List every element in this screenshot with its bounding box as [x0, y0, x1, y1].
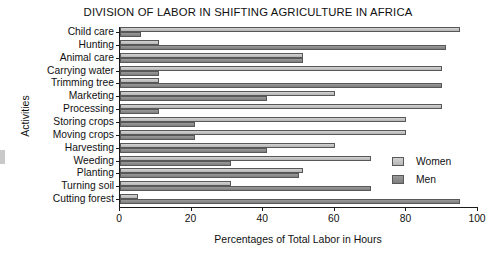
x-axis-tick	[262, 207, 263, 211]
bar-men	[120, 173, 299, 178]
legend-swatch-women	[392, 157, 404, 166]
y-axis-label: Activities	[19, 71, 31, 161]
x-axis-tick	[405, 207, 406, 211]
category-label: Turning soil	[61, 180, 114, 192]
bar-men	[120, 186, 371, 191]
x-axis-tick-label: 20	[185, 213, 196, 224]
x-axis-label: Percentages of Total Labor in Hours	[119, 233, 477, 245]
bar-men	[120, 109, 159, 114]
category-label: Marketing	[69, 90, 114, 102]
chart-row: Animal care	[119, 53, 477, 65]
chart-row: Moving crops	[119, 130, 477, 142]
x-axis-line	[119, 207, 478, 208]
scan-artifact	[0, 150, 5, 164]
chart-row: Hunting	[119, 40, 477, 52]
legend-label: Women	[416, 155, 451, 168]
category-label: Trimming tree	[51, 77, 114, 89]
category-label: Carrying water	[47, 65, 114, 77]
bar-men	[120, 96, 267, 101]
bar-men	[120, 71, 159, 76]
bar-women	[120, 104, 442, 109]
category-label: Child care	[68, 26, 114, 38]
chart-row: Carrying water	[119, 66, 477, 78]
bar-men	[120, 148, 267, 153]
legend-item: Women	[392, 155, 487, 171]
x-axis-tick	[191, 207, 192, 211]
chart-row: Child care	[119, 27, 477, 39]
category-label: Planting	[77, 167, 114, 179]
legend-item: Men	[392, 173, 487, 189]
chart-row: Storing crops	[119, 117, 477, 129]
bar-women	[120, 27, 460, 32]
x-axis-tick-label: 60	[328, 213, 339, 224]
bar-men	[120, 161, 231, 166]
bar-chart: DIVISION OF LABOR IN SHIFTING AGRICULTUR…	[0, 0, 496, 259]
legend: WomenMen	[392, 155, 487, 191]
category-label: Storing crops	[53, 116, 114, 128]
bar-women	[120, 66, 442, 71]
x-axis-tick	[119, 207, 120, 211]
category-label: Harvesting	[65, 142, 114, 154]
category-label: Animal care	[60, 52, 114, 64]
category-label: Cutting forest	[53, 193, 114, 205]
x-axis-tick	[334, 207, 335, 211]
bar-men	[120, 83, 442, 88]
chart-row: Harvesting	[119, 143, 477, 155]
chart-title: DIVISION OF LABOR IN SHIFTING AGRICULTUR…	[0, 6, 496, 18]
bar-men	[120, 135, 195, 140]
x-axis-tick	[477, 207, 478, 211]
bar-men	[120, 122, 195, 127]
bar-men	[120, 199, 460, 204]
category-label: Processing	[63, 103, 114, 115]
category-label: Weeding	[74, 155, 114, 167]
chart-row: Marketing	[119, 91, 477, 103]
category-label: Hunting	[79, 39, 115, 51]
bar-men	[120, 45, 446, 50]
category-label: Moving crops	[53, 129, 114, 141]
x-axis-tick-label: 40	[256, 213, 267, 224]
legend-swatch-men	[392, 175, 404, 184]
x-axis-tick-label: 0	[116, 213, 122, 224]
legend-label: Men	[416, 173, 436, 186]
chart-row: Cutting forest	[119, 194, 477, 206]
bar-men	[120, 58, 303, 63]
x-axis-tick-label: 80	[400, 213, 411, 224]
bar-men	[120, 32, 141, 37]
chart-row: Processing	[119, 104, 477, 116]
chart-row: Trimming tree	[119, 78, 477, 90]
x-axis-tick-label: 100	[468, 213, 485, 224]
